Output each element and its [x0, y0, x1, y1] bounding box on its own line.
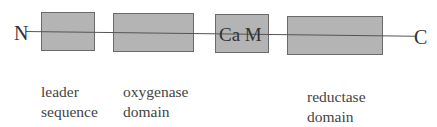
oxygenase-domain-caption: oxygenase domain: [123, 82, 188, 122]
caption-line: domain: [123, 102, 188, 122]
n-terminus-label: N: [14, 23, 28, 43]
reductase-domain-caption: reductase domain: [307, 87, 366, 127]
calmodulin-label: Ca M: [219, 25, 262, 44]
caption-line: domain: [307, 107, 366, 127]
caption-line: sequence: [41, 102, 98, 122]
caption-line: leader: [41, 82, 98, 102]
c-terminus-label: C: [414, 27, 427, 47]
caption-line: oxygenase: [123, 82, 188, 102]
leader-sequence-caption: leader sequence: [41, 82, 98, 122]
caption-line: reductase: [307, 87, 366, 107]
